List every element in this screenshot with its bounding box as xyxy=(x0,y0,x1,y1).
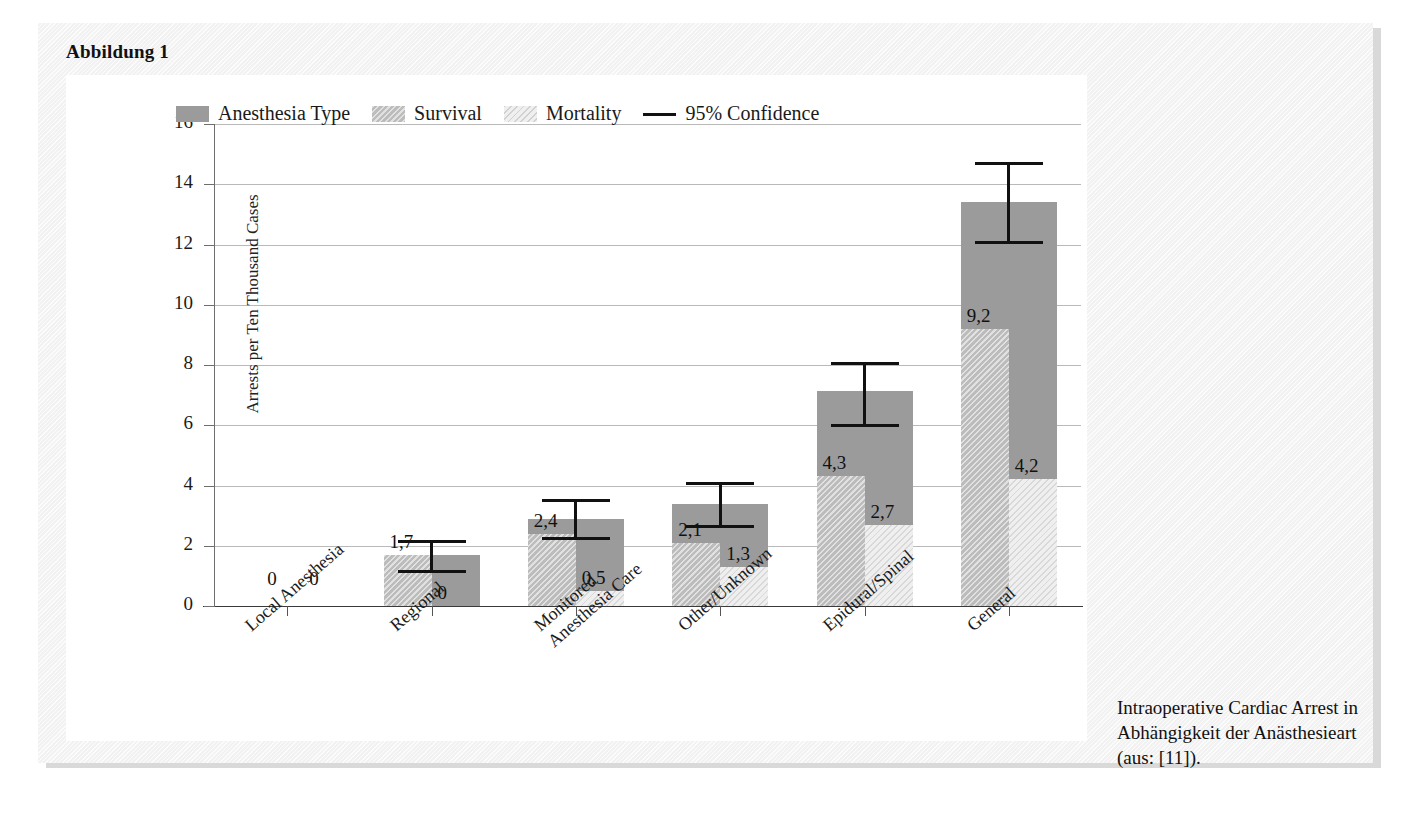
error-bar xyxy=(672,124,768,606)
y-tick-mark-12 xyxy=(204,245,215,246)
y-tick-label-8: 8 xyxy=(153,352,193,374)
y-tick-label-14: 14 xyxy=(153,171,193,193)
y-tick-mark-8 xyxy=(204,365,215,366)
error-bar-stem xyxy=(430,540,433,570)
legend-label: Mortality xyxy=(546,102,622,125)
legend-item-survival[interactable]: Survival xyxy=(372,102,482,125)
y-tick-mark-2 xyxy=(204,546,215,547)
y-tick-label-12: 12 xyxy=(153,232,193,254)
error-bar-cap-upper xyxy=(686,482,754,485)
gridline-10 xyxy=(215,305,1081,306)
figure-panel: Abbildung 1 0246810121416 Arrests per Te… xyxy=(38,22,1373,763)
error-bar-cap-upper xyxy=(398,540,466,543)
legend-item-mortality[interactable]: Mortality xyxy=(504,102,622,125)
error-bar-stem xyxy=(863,362,866,424)
y-tick-mark-10 xyxy=(204,305,215,306)
legend-swatch-hatch-icon xyxy=(372,106,405,122)
y-tick-label-4: 4 xyxy=(153,473,193,495)
y-tick-mark-0 xyxy=(204,606,215,607)
value-label-zero-survival: 0 xyxy=(267,568,277,590)
y-tick-mark-6 xyxy=(204,425,215,426)
error-bar-stem xyxy=(1007,162,1010,242)
error-bar xyxy=(528,124,624,606)
error-bar-cap-upper xyxy=(975,162,1043,165)
x-tick-mark xyxy=(1009,606,1010,616)
error-bar-cap-lower xyxy=(542,537,610,540)
gridline-12 xyxy=(215,245,1081,246)
x-tick-mark xyxy=(287,606,288,616)
error-bar-stem xyxy=(719,482,722,524)
y-tick-label-10: 10 xyxy=(153,292,193,314)
chart-card: 0246810121416 Arrests per Ten Thousand C… xyxy=(66,75,1087,741)
error-bar-stem xyxy=(574,499,577,537)
legend-label: Anesthesia Type xyxy=(218,102,350,125)
y-tick-label-0: 0 xyxy=(153,593,193,615)
legend-label: 95% Confidence xyxy=(685,102,819,125)
plot-area: 0246810121416 Arrests per Ten Thousand C… xyxy=(215,124,1081,606)
gridline-14 xyxy=(215,184,1081,185)
error-bar xyxy=(817,124,913,606)
error-bar-cap-lower xyxy=(975,241,1043,244)
y-tick-label-6: 6 xyxy=(153,412,193,434)
legend-item-anesthesia-type[interactable]: Anesthesia Type xyxy=(176,102,350,125)
y-tick-label-2: 2 xyxy=(153,533,193,555)
gridline-8 xyxy=(215,365,1081,366)
error-bar xyxy=(961,124,1057,606)
legend-swatch-light-icon xyxy=(504,106,537,122)
y-tick-mark-14 xyxy=(204,184,215,185)
figure-caption: Intraoperative Cardiac Arrest in Abhängi… xyxy=(1117,695,1387,770)
legend-item-95-confidence[interactable]: 95% Confidence xyxy=(643,102,819,125)
gridline-4 xyxy=(215,486,1081,487)
y-tick-mark-4 xyxy=(204,486,215,487)
x-tick-mark xyxy=(720,606,721,616)
gridline-2 xyxy=(215,546,1081,547)
legend-swatch-line-icon xyxy=(643,106,676,122)
error-bar-cap-upper xyxy=(831,362,899,365)
x-axis-line xyxy=(203,606,1083,607)
error-bar-cap-lower xyxy=(686,525,754,528)
page-root: Abbildung 1 0246810121416 Arrests per Te… xyxy=(0,0,1426,813)
legend-label: Survival xyxy=(414,102,482,125)
chart-legend: Anesthesia TypeSurvivalMortality95% Conf… xyxy=(176,102,841,125)
figure-title: Abbildung 1 xyxy=(66,41,169,63)
error-bar xyxy=(384,124,480,606)
error-bar-cap-lower xyxy=(398,570,466,573)
bar-column-local-anesthesia[interactable] xyxy=(239,124,335,606)
error-bar-cap-upper xyxy=(542,499,610,502)
error-bar-cap-lower xyxy=(831,424,899,427)
legend-swatch-solid-icon xyxy=(176,106,209,122)
gridline-6 xyxy=(215,425,1081,426)
